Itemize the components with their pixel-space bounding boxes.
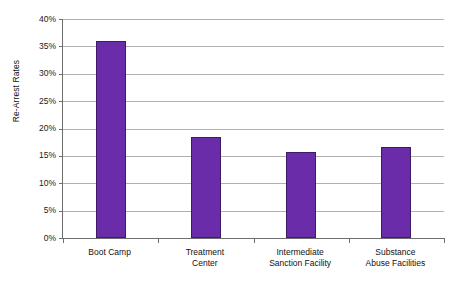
- x-axis-separator: [444, 238, 445, 243]
- x-label-line: Treatment: [157, 247, 252, 258]
- x-label-line: Boot Camp: [62, 247, 157, 258]
- y-tick-label: 15%: [14, 151, 56, 160]
- x-label-line: Center: [157, 258, 252, 269]
- x-axis-label: Boot Camp: [62, 247, 157, 258]
- y-tick-mark: [59, 101, 63, 102]
- gridline: [63, 19, 444, 20]
- y-tick-label: 25%: [14, 97, 56, 106]
- y-tick-label: 35%: [14, 42, 56, 51]
- y-tick-label: 40%: [14, 15, 56, 24]
- x-axis-separator: [158, 238, 159, 243]
- y-tick-label: 0%: [14, 234, 56, 243]
- x-axis-separator: [349, 238, 350, 243]
- x-axis-label: IntermediateSanction Facility: [253, 247, 348, 269]
- x-axis-separator: [254, 238, 255, 243]
- y-tick-mark: [59, 19, 63, 20]
- x-axis-label: TreatmentCenter: [157, 247, 252, 269]
- bar-substance-abuse-facilities: [381, 147, 411, 238]
- x-label-line: Intermediate: [253, 247, 348, 258]
- y-tick-mark: [59, 183, 63, 184]
- y-tick-label: 10%: [14, 179, 56, 188]
- x-label-line: Substance: [348, 247, 443, 258]
- y-tick-mark: [59, 129, 63, 130]
- bar-chart: Re-Arrest Rates 40%35%30%25%20%15%10%5%0…: [0, 0, 454, 281]
- y-tick-mark: [59, 156, 63, 157]
- x-axis-label: SubstanceAbuse Facilities: [348, 247, 443, 269]
- y-tick-label: 20%: [14, 124, 56, 133]
- x-axis-separator: [63, 238, 64, 243]
- x-label-line: Abuse Facilities: [348, 258, 443, 269]
- bar-treatment-center: [191, 137, 221, 238]
- bar-boot-camp: [96, 41, 126, 238]
- bar-intermediate-sanction-facility: [286, 152, 316, 238]
- x-label-line: Sanction Facility: [253, 258, 348, 269]
- y-tick-mark: [59, 46, 63, 47]
- y-tick-mark: [59, 74, 63, 75]
- plot-area: [62, 19, 444, 239]
- y-tick-mark: [59, 211, 63, 212]
- y-tick-label: 30%: [14, 69, 56, 78]
- y-tick-label: 5%: [14, 206, 56, 215]
